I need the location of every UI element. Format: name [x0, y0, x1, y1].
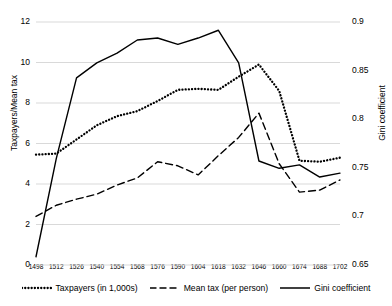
y-axis-right-tick-label: 0.7 [352, 210, 382, 220]
y-axis-right-tick-label: 0.75 [352, 162, 382, 172]
chart-legend: Taxpayers (in 1,000s)Mean tax (per perso… [0, 283, 392, 293]
y-axis-left-tick-label: 4 [4, 178, 30, 188]
y-axis-left-tick-label: 8 [4, 97, 30, 107]
legend-item: Mean tax (per person) [150, 283, 269, 293]
series-line [36, 113, 340, 216]
chart-container: Taxpayers/Mean tax Gini coefficient 0246… [0, 0, 392, 306]
legend-swatch-dotted-icon [22, 284, 52, 292]
y-axis-left-tick-label: 2 [4, 219, 30, 229]
y-axis-right-tick-label: 0.9 [352, 16, 382, 26]
plot-area [36, 22, 340, 265]
legend-item: Gini coefficient [280, 283, 370, 293]
y-axis-right-tick-label: 0.65 [352, 259, 382, 269]
y-axis-left-tick-label: 10 [4, 57, 30, 67]
legend-swatch-solid-icon [280, 284, 310, 292]
legend-item: Taxpayers (in 1,000s) [22, 283, 138, 293]
plot-svg [36, 22, 340, 265]
y-axis-left-tick-label: 6 [4, 138, 30, 148]
legend-item-label: Gini coefficient [314, 283, 370, 293]
series-line [36, 65, 340, 162]
legend-item-label: Mean tax (per person) [184, 283, 269, 293]
y-axis-right-tick-label: 0.8 [352, 113, 382, 123]
legend-item-label: Taxpayers (in 1,000s) [56, 283, 138, 293]
y-axis-left-tick-label: 12 [4, 16, 30, 26]
legend-swatch-dashed-icon [150, 284, 180, 292]
y-axis-right-tick-label: 0.85 [352, 65, 382, 75]
